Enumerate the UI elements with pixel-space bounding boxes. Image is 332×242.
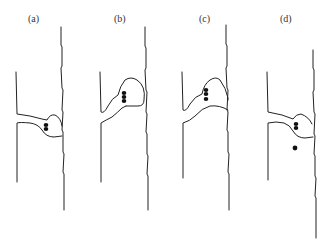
released-particle (293, 146, 298, 151)
particle (122, 95, 127, 99)
panel-a-particles (44, 123, 49, 131)
particle (294, 126, 299, 130)
panel-c-particles (204, 88, 209, 101)
panel-b-label: (b) (114, 13, 126, 25)
particle (44, 127, 49, 131)
panel-d-channel-upper (267, 72, 312, 124)
panel-d-wall (313, 50, 316, 238)
particle (204, 88, 209, 92)
panel-a-wall (61, 27, 64, 210)
panel-c: (c) (182, 13, 229, 210)
particle (294, 122, 299, 126)
panel-c-label: (c) (199, 13, 210, 25)
panel-c-wall (226, 25, 229, 210)
panel-b-wall (145, 27, 148, 210)
particle (204, 92, 209, 96)
figure-canvas: (a) (b) (c) (d) (0, 0, 332, 242)
panel-a: (a) (16, 13, 64, 210)
panel-d: (d) (267, 13, 316, 238)
panel-b-channel-lower (101, 106, 126, 182)
panel-d-label: (d) (280, 13, 292, 25)
panel-b: (b) (100, 13, 148, 210)
particle (122, 99, 127, 103)
panel-d-channel-lower (268, 122, 313, 180)
particle (44, 123, 49, 127)
panel-a-channel-lower (17, 123, 62, 183)
panel-b-particles (122, 91, 127, 103)
panel-a-channel-upper (16, 72, 62, 126)
particle (204, 97, 209, 101)
panel-c-channel-lower (183, 106, 228, 178)
particle (122, 91, 127, 95)
panel-a-label: (a) (28, 13, 39, 25)
